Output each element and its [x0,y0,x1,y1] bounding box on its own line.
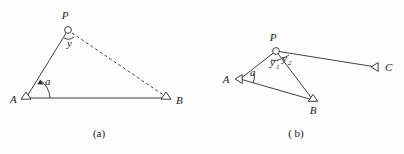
panel-b-angle-label-y1: y [269,56,275,68]
panel-a-angle-label-a: a [45,75,51,87]
panel-b-label-A: A [222,73,230,85]
panel-b-caption: ( b) [288,127,304,140]
panel-a-edge-P-B-dashed [72,33,165,96]
panel-a-caption: (a) [93,127,106,140]
panel-b-station-marker-A [235,75,242,84]
panel-a-station-marker-P [65,27,72,34]
panel-b-angle-label-y2: y [281,52,287,64]
panel-b-station-marker-C [371,63,378,72]
panel-b-edge-A-B [240,79,313,100]
panel-b-label-B: B [310,104,317,116]
panel-a: A P B a y (a) [9,9,183,140]
panel-a-label-A: A [9,93,17,105]
panel-b: A P B C a y 1 y 2 ( b) [222,31,393,140]
panel-a-angle-label-y: y [66,37,72,49]
panel-a-station-marker-B [161,92,171,99]
figure-canvas: A P B a y (a) A [0,0,404,154]
panel-b-label-C: C [385,61,393,73]
panel-b-angle-label-a: a [250,66,256,78]
panel-b-label-P: P [269,31,277,43]
panel-b-angle-label-y1-subscript: 1 [276,63,280,71]
panel-b-station-marker-P [273,48,280,55]
panel-a-label-B: B [176,94,183,106]
survey-triangulation-figure: A P B a y (a) A [0,0,404,154]
panel-b-angle-label-y2-subscript: 2 [288,59,292,67]
panel-a-label-P: P [61,9,69,21]
